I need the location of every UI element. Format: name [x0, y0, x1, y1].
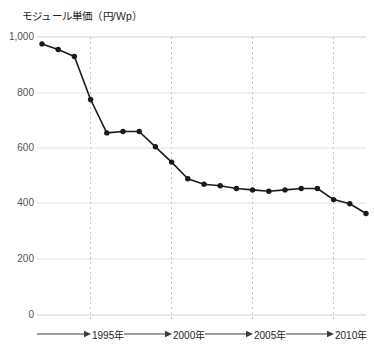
data-point	[88, 97, 93, 102]
x-axis-tick-2010: 2010年	[335, 327, 367, 342]
data-point	[104, 130, 109, 135]
data-point	[218, 183, 223, 188]
data-point	[137, 129, 142, 134]
x-axis-labels: 1995年 2000年 2005年 2010年	[0, 322, 374, 345]
chart-container: モジュール単価（円/Wp） 1,000 800 600 400 200 0	[0, 0, 374, 345]
data-point	[315, 186, 320, 191]
data-point	[363, 211, 368, 216]
data-point	[39, 41, 44, 46]
plot-area	[0, 0, 374, 345]
data-point	[250, 187, 255, 192]
horizontal-gridlines	[37, 37, 366, 315]
data-point	[282, 187, 287, 192]
x-axis-tick-1995: 1995年	[92, 327, 124, 342]
data-point	[153, 144, 158, 149]
data-point	[185, 176, 190, 181]
x-axis-tick-2000: 2000年	[173, 327, 205, 342]
data-point-markers	[39, 41, 368, 216]
vertical-gridlines	[91, 37, 334, 320]
data-point	[120, 129, 125, 134]
data-point	[169, 159, 174, 164]
data-point	[201, 182, 206, 187]
x-axis-tick-2005: 2005年	[254, 327, 286, 342]
data-point	[266, 189, 271, 194]
data-point	[56, 47, 61, 52]
data-point	[347, 201, 352, 206]
data-point	[331, 197, 336, 202]
data-point	[72, 54, 77, 59]
data-point	[299, 186, 304, 191]
data-point	[234, 186, 239, 191]
